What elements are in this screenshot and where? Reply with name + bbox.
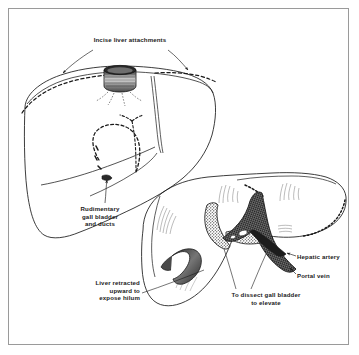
leader-incise-right [168, 50, 188, 70]
label-to-dissect-gall-bladder-to-elevate: To dissect gall bladder to elevate [212, 291, 320, 306]
label-hepatic-artery: Hepatic artery [297, 253, 355, 261]
cystic-duct-band [205, 203, 230, 249]
label-rudimentary-gall-bladder-and-ducts: Rudimentary gall bladder and ducts [56, 205, 144, 228]
ivc-radiating-marks [96, 92, 142, 106]
illustration-page: Incise liver attachments Rudimentary gal… [0, 0, 359, 355]
ivc-cuff-cylinder [104, 65, 136, 92]
rudimentary-gallbladder-outline [93, 124, 140, 172]
right-lobe-fold [237, 176, 336, 184]
leader-incise-left [63, 50, 93, 73]
leader-dissect [224, 249, 236, 289]
hilum-hatch-fan [278, 225, 292, 232]
leader-dissect-2 [251, 254, 266, 289]
gallbladder-neck [161, 256, 172, 270]
label-liver-retracted-upward-to-expose-hilum: Liver retracted upward to expose hilum [36, 279, 140, 302]
shading-mid-dome [219, 185, 238, 203]
shading-right-lobe [280, 183, 299, 201]
shading-left-lobe [157, 206, 176, 234]
gallbladder-base-marker [102, 175, 112, 180]
label-portal-vein: Portal vein [297, 272, 349, 280]
portal-vein-structure [223, 192, 296, 272]
leader-rudimentary [105, 180, 107, 203]
leader-hepatic-artery [287, 253, 296, 256]
right-lobe-dotted-edge [303, 200, 345, 236]
falciform-lower-fold [90, 153, 157, 196]
falciform-ligament [151, 76, 161, 153]
label-incise-liver-attachments: Incise liver attachments [60, 36, 200, 44]
incision-line-left [22, 75, 110, 113]
left-lobe-edge [152, 196, 160, 277]
lower-liver-panel [142, 173, 347, 306]
gallbladder-lower [172, 249, 201, 284]
